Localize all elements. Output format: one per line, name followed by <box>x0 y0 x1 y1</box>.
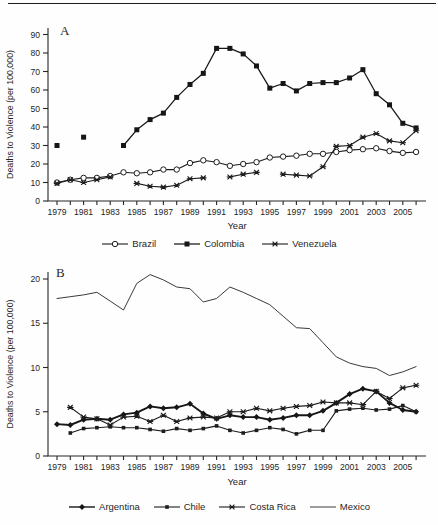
x-tick-label: 1995 <box>260 207 279 217</box>
x-tick-label: 2005 <box>393 462 412 472</box>
x-tick-label: 1981 <box>74 462 93 472</box>
top-rule <box>8 3 436 4</box>
x-tick-label: 1989 <box>180 462 199 472</box>
x-tick-label: 2003 <box>367 462 386 472</box>
x-tick-label: 1987 <box>154 462 173 472</box>
legend-item-argentina: Argentina <box>68 501 140 512</box>
legend-marker-venezuela-icon <box>261 239 289 249</box>
legend-item-brazil: Brazil <box>101 238 156 249</box>
legend-marker-brazil-icon <box>101 239 129 249</box>
x-tick-label: 1999 <box>313 207 332 217</box>
x-tick-label: 1979 <box>47 207 66 217</box>
legend-label: Costa Rica <box>249 501 295 512</box>
x-tick-label: 1987 <box>154 207 173 217</box>
x-tick-label: 1993 <box>234 207 253 217</box>
y-tick-label: 5 <box>35 407 40 417</box>
y-axis-title: Deaths to Violence (per 100,000) <box>5 50 15 179</box>
legend-label: Mexico <box>340 501 370 512</box>
legend-marker-chile-icon <box>153 502 181 512</box>
legend-item-mexico: Mexico <box>309 501 370 512</box>
x-tick-label: 2005 <box>393 207 412 217</box>
panel-a-chart: 0102030405060708090197919811983198519871… <box>0 18 438 234</box>
legend-item-costa-rica: Costa Rica <box>218 501 295 512</box>
legend-marker-argentina-icon <box>68 502 96 512</box>
series-colombia <box>55 46 419 148</box>
axes <box>43 272 426 460</box>
panel-b-legend: ArgentinaChileCosta RicaMexico <box>0 501 438 512</box>
x-tick-label: 1993 <box>234 462 253 472</box>
x-tick-label: 1997 <box>287 207 306 217</box>
y-tick-label: 60 <box>30 85 40 95</box>
x-tick-label: 1991 <box>207 207 226 217</box>
legend-label: Brazil <box>132 238 156 249</box>
legend-item-chile: Chile <box>153 501 206 512</box>
x-tick-label: 1991 <box>207 462 226 472</box>
y-tick-label: 15 <box>30 318 40 328</box>
series-brazil <box>54 146 419 186</box>
y-tick-label: 20 <box>30 159 40 169</box>
x-tick-label: 1989 <box>180 207 199 217</box>
x-tick-label: 1979 <box>47 462 66 472</box>
y-tick-label: 0 <box>35 451 40 461</box>
legend-label: Venezuela <box>292 238 336 249</box>
legend-label: Chile <box>184 501 206 512</box>
x-tick-label: 2003 <box>367 207 386 217</box>
x-axis-title: Year <box>227 476 246 487</box>
x-tick-label: 1981 <box>74 207 93 217</box>
x-tick-label: 2001 <box>340 462 359 472</box>
x-tick-label: 2001 <box>340 207 359 217</box>
axis-labels: 0510152019791981198319851987198919911993… <box>5 274 413 487</box>
legend-item-venezuela: Venezuela <box>261 238 336 249</box>
panel-a-legend: BrazilColombiaVenezuela <box>0 238 438 249</box>
x-tick-label: 1985 <box>127 207 146 217</box>
y-tick-label: 70 <box>30 67 40 77</box>
legend-label: Colombia <box>204 238 244 249</box>
y-axis-title: Deaths to Violence (per 100,000) <box>5 299 15 428</box>
legend-marker-mexico-icon <box>309 502 337 512</box>
y-tick-label: 90 <box>30 30 40 40</box>
x-tick-label: 1995 <box>260 462 279 472</box>
x-tick-label: 1999 <box>313 462 332 472</box>
y-tick-label: 0 <box>35 196 40 206</box>
y-tick-label: 30 <box>30 141 40 151</box>
panel-b-chart: 0510152019791981198319851987198919911993… <box>0 262 438 490</box>
y-tick-label: 10 <box>30 363 40 373</box>
x-tick-label: 1983 <box>101 462 120 472</box>
x-tick-label: 1997 <box>287 462 306 472</box>
y-tick-label: 10 <box>30 178 40 188</box>
x-tick-label: 1983 <box>101 207 120 217</box>
y-tick-label: 50 <box>30 104 40 114</box>
x-axis-title: Year <box>227 220 246 231</box>
y-tick-label: 80 <box>30 48 40 58</box>
legend-item-colombia: Colombia <box>173 238 244 249</box>
x-tick-label: 1985 <box>127 462 146 472</box>
y-tick-label: 20 <box>30 274 40 284</box>
y-tick-label: 40 <box>30 122 40 132</box>
legend-marker-colombia-icon <box>173 239 201 249</box>
legend-label: Argentina <box>99 501 140 512</box>
figure-page: A 01020304050607080901979198119831985198… <box>0 0 438 525</box>
series-venezuela <box>54 128 420 189</box>
series-mexico <box>57 275 416 376</box>
legend-marker-costa-rica-icon <box>218 502 246 512</box>
